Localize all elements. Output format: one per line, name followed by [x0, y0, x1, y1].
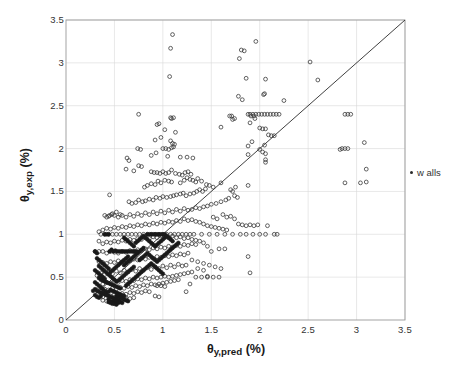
y-tick-label: 0: [38, 315, 64, 325]
x-tick-label: 0: [49, 325, 83, 335]
chart-legend: w alls: [410, 167, 441, 178]
x-tick-label: 1: [146, 325, 180, 335]
y-axis-tick-labels: 00.511.522.533.5: [34, 0, 64, 377]
x-tick-label: 3: [340, 325, 374, 335]
x-axis-theta-symbol: θ: [207, 342, 214, 356]
y-axis-title: θy,exp (%): [14, 120, 38, 230]
y-tick-label: 2.5: [38, 101, 64, 111]
x-axis-subscript: y,pred: [214, 346, 243, 357]
y-axis-theta-symbol: θ: [18, 195, 32, 202]
y-tick-label: 3.5: [38, 15, 64, 25]
x-tick-label: 3.5: [388, 325, 422, 335]
legend-label-walls: w alls: [417, 167, 441, 178]
x-tick-label: 0.5: [97, 325, 131, 335]
x-tick-label: 2.5: [291, 325, 325, 335]
y-tick-label: 1: [38, 229, 64, 239]
x-tick-label: 1.5: [194, 325, 228, 335]
y-tick-label: 3: [38, 58, 64, 68]
one-to-one-reference-line: [66, 20, 405, 320]
data-markers-open: [93, 33, 368, 303]
x-axis-unit: (%): [246, 342, 265, 356]
x-tick-label: 2: [243, 325, 277, 335]
y-axis-unit: (%): [18, 148, 32, 167]
scatter-chart-figure: 00.511.522.533.5 00.511.522.533.5 θy,exp…: [0, 0, 471, 377]
y-axis-subscript: y,exp: [23, 171, 34, 195]
y-tick-label: 1.5: [38, 186, 64, 196]
y-tick-label: 2: [38, 144, 64, 154]
x-axis-title: θy,pred (%): [66, 342, 406, 357]
x-axis-tick-labels: 00.511.522.533.5: [0, 325, 471, 339]
plot-canvas: [0, 0, 471, 377]
y-tick-label: 0.5: [38, 272, 64, 282]
legend-marker-icon: [410, 171, 413, 174]
